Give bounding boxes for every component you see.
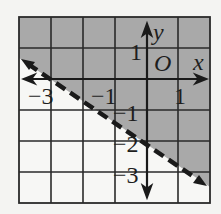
y-tick-label: 1	[130, 39, 142, 65]
y-tick-label: −2	[113, 131, 139, 157]
y-tick-label: −1	[113, 100, 139, 126]
origin-label: O	[154, 50, 171, 76]
inequality-graph: y x O −3 −1 1 1 −1 −2 −3	[0, 0, 221, 214]
x-axis-label: x	[192, 49, 204, 75]
x-tick-label: 1	[174, 83, 186, 109]
x-tick-label: −3	[28, 83, 54, 109]
y-tick-label: −3	[113, 162, 139, 188]
y-axis-label: y	[151, 19, 164, 45]
